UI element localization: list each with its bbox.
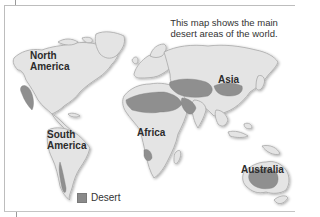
map-caption: This map shows the main desert areas of … [160, 17, 288, 39]
desert-swatch-icon [77, 193, 87, 203]
label-asia: Asia [218, 74, 239, 85]
label-south-america: South America [47, 129, 86, 151]
southeast-asia [215, 110, 228, 126]
japan [256, 75, 265, 90]
new-guinea [262, 145, 280, 154]
label-north-america: North America [30, 50, 69, 72]
label-australia: Australia [241, 164, 284, 175]
caribbean-islands [68, 113, 80, 117]
label-line: America [30, 61, 69, 72]
label-line: South [47, 129, 86, 140]
label-line: North [30, 50, 69, 61]
legend-label: Desert [91, 192, 120, 203]
label-line: America [47, 140, 86, 151]
map-legend: Desert [77, 192, 120, 203]
indonesia [228, 123, 252, 137]
british-isles [132, 57, 138, 64]
label-africa: Africa [137, 127, 165, 138]
madagascar [174, 150, 181, 163]
new-zealand [274, 196, 288, 204]
